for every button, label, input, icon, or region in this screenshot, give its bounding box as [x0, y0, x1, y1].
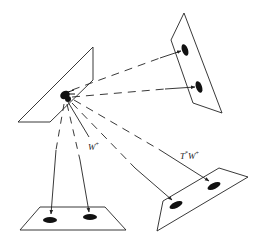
- bottom-left-plane: [20, 207, 126, 230]
- ray-to-bl-1: [51, 104, 64, 214]
- target-dot-tr-1: [180, 43, 190, 56]
- tw-label-sup: +: [196, 150, 199, 156]
- w-label-base: W: [88, 142, 96, 152]
- top-right-plane: [171, 13, 222, 113]
- projection-diagram: W+ T*W+: [0, 0, 266, 245]
- target-dot-br-2: [206, 180, 221, 191]
- target-dot-tr-2: [194, 80, 204, 93]
- target-dot-br-1: [168, 199, 183, 210]
- ray-to-br-1: [72, 103, 172, 200]
- solid-ray-w: [68, 102, 89, 137]
- bottom-right-plane: [157, 168, 248, 231]
- w-plus-label: W+: [88, 141, 99, 152]
- ray-to-tr-1: [72, 51, 181, 90]
- diagram-svg: [0, 0, 266, 245]
- t-star-w-plus-label: T*W+: [180, 150, 199, 161]
- w-label-sup: +: [96, 141, 99, 147]
- ray-to-tr-2: [72, 87, 195, 97]
- ray-to-bl-2: [67, 104, 89, 212]
- tw-label-w: W: [188, 151, 196, 161]
- source-plane: [18, 47, 93, 122]
- target-dot-bl-1: [43, 217, 57, 223]
- target-dot-bl-2: [83, 214, 97, 220]
